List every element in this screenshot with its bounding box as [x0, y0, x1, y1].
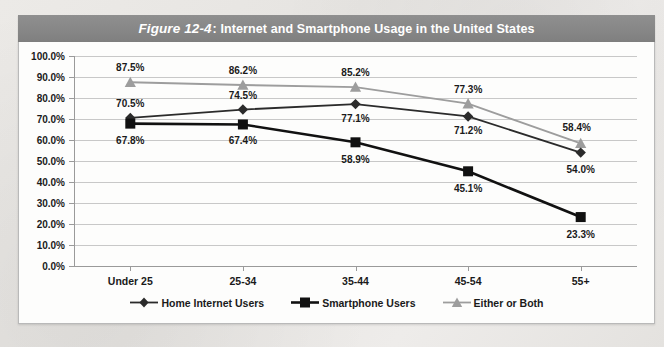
data-label: 77.1%	[341, 113, 369, 124]
x-axis-label: 55+	[572, 275, 590, 287]
x-axis-tick	[356, 266, 357, 271]
data-label: 70.5%	[116, 97, 144, 108]
data-label: 45.1%	[454, 183, 482, 194]
x-axis-tick	[581, 266, 582, 271]
legend-item[interactable]: Smartphone Users	[290, 296, 415, 309]
legend-label: Home Internet Users	[161, 297, 264, 309]
y-axis-label: 10.0%	[37, 240, 65, 251]
y-axis-label: 0.0%	[42, 261, 65, 272]
legend-label: Smartphone Users	[322, 297, 415, 309]
y-axis-label: 60.0%	[37, 135, 65, 146]
data-label: 67.8%	[116, 134, 144, 145]
y-axis-label: 40.0%	[37, 177, 65, 188]
y-axis-label: 80.0%	[37, 93, 65, 104]
data-point-marker	[463, 166, 473, 176]
y-axis-label: 70.0%	[37, 114, 65, 125]
figure-container: Figure 12-4: Internet and Smartphone Usa…	[18, 15, 655, 324]
y-axis-label: 20.0%	[37, 219, 65, 230]
x-axis-label: 45-54	[455, 275, 482, 287]
legend-item[interactable]: Either or Both	[442, 296, 544, 309]
x-axis-tick	[130, 266, 131, 271]
page-title: : Internet and Smartphone Usage in the U…	[213, 22, 535, 36]
y-axis-tick	[69, 266, 74, 267]
legend-label: Either or Both	[474, 297, 544, 309]
chart-legend: Home Internet UsersSmartphone UsersEithe…	[19, 296, 654, 309]
figure-number: Figure 12-4	[138, 21, 211, 36]
y-axis-label: 90.0%	[37, 72, 65, 83]
data-label: 58.9%	[341, 154, 369, 165]
data-label: 86.2%	[229, 64, 257, 75]
x-axis-tick	[243, 266, 244, 271]
y-axis-label: 30.0%	[37, 198, 65, 209]
chart-frame: 100.0%90.0%80.0%70.0%60.0%50.0%40.0%30.0…	[18, 42, 655, 324]
data-label: 67.4%	[229, 135, 257, 146]
y-axis-label: 50.0%	[37, 156, 65, 167]
figure-title-bar: Figure 12-4: Internet and Smartphone Usa…	[18, 15, 655, 42]
data-point-marker	[463, 111, 473, 121]
x-axis-tick	[468, 266, 469, 271]
data-point-marker	[350, 99, 360, 109]
y-axis-label: 100.0%	[31, 51, 65, 62]
plot-area: 100.0%90.0%80.0%70.0%60.0%50.0%40.0%30.0…	[74, 56, 637, 266]
data-label: 77.3%	[454, 83, 482, 94]
data-point-marker	[576, 147, 586, 157]
data-point-marker	[238, 119, 248, 129]
legend-item[interactable]: Home Internet Users	[129, 296, 264, 309]
data-point-marker	[576, 212, 586, 222]
legend-marker-triangle-icon	[442, 296, 472, 309]
data-label: 71.2%	[454, 125, 482, 136]
data-label: 54.0%	[567, 163, 595, 174]
data-label: 87.5%	[116, 62, 144, 73]
x-axis-label: 35-44	[342, 275, 369, 287]
data-label: 58.4%	[563, 122, 591, 133]
data-label: 74.5%	[229, 89, 257, 100]
data-point-marker	[238, 104, 248, 114]
data-label: 23.3%	[567, 229, 595, 240]
data-label: 85.2%	[341, 67, 369, 78]
x-axis-label: Under 25	[108, 275, 153, 287]
legend-marker-diamond-icon	[129, 296, 159, 309]
data-point-marker	[125, 119, 135, 129]
data-point-marker	[351, 137, 361, 147]
x-axis-label: 25-34	[229, 275, 256, 287]
legend-marker-square-icon	[290, 296, 320, 309]
